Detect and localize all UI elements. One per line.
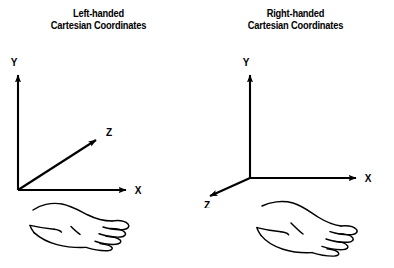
right-z-axis <box>210 178 250 196</box>
left-x-axis-label: X <box>135 185 142 196</box>
panel-left-handed: Left-handed Cartesian Coordinates Y X Z <box>0 0 197 268</box>
right-z-axis-label: Z <box>204 200 210 208</box>
right-y-axis-label: Y <box>243 57 250 68</box>
panel-right-title-line2: Cartesian Coordinates <box>204 20 387 32</box>
left-z-axis <box>18 140 96 190</box>
panel-right-handed: Right-handed Cartesian Coordinates Y X Z <box>197 0 394 268</box>
left-hand-illustration <box>24 196 154 260</box>
right-handed-axes: Y X Z <box>197 48 394 208</box>
panel-left-title-line1: Left-handed <box>7 8 190 20</box>
panel-left-title: Left-handed Cartesian Coordinates <box>0 8 197 32</box>
left-y-axis-label: Y <box>11 57 18 68</box>
left-z-axis-label: Z <box>106 127 112 138</box>
right-hand-illustration <box>250 196 380 264</box>
panel-right-title: Right-handed Cartesian Coordinates <box>197 8 394 32</box>
left-handed-axes: Y X Z <box>0 48 197 208</box>
coordinate-handedness-figure: Left-handed Cartesian Coordinates Y X Z <box>0 0 394 268</box>
panel-left-title-line2: Cartesian Coordinates <box>7 20 190 32</box>
right-x-axis-label: X <box>365 173 372 184</box>
panel-right-title-line1: Right-handed <box>204 8 387 20</box>
